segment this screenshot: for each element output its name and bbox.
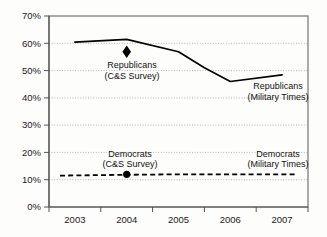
- annotation-democrats-cs-survey: Democrats (C&S Survey): [102, 149, 157, 170]
- chart-figure: 0% 10% 20% 30% 40% 50% 60% 70% 2003 2004…: [0, 0, 327, 237]
- y-axis-tick-labels: 0% 10% 20% 30% 40% 50% 60% 70%: [22, 10, 42, 212]
- annotation-republicans-military-times: Republicans (Military Times): [248, 81, 309, 102]
- y-tick-label: 20%: [22, 147, 42, 158]
- y-tick-label: 50%: [22, 65, 42, 76]
- annotation-line-2: (Military Times): [248, 159, 309, 169]
- marker-democrats-cs-survey: [123, 171, 130, 178]
- line-chart: 0% 10% 20% 30% 40% 50% 60% 70% 2003 2004…: [0, 0, 327, 237]
- annotation-line-1: Republicans: [253, 81, 303, 91]
- annotation-line-2: (C&S Survey): [104, 71, 159, 81]
- x-tick-label: 2004: [116, 214, 137, 225]
- x-tick-label: 2003: [64, 214, 85, 225]
- x-tick-label: 2005: [168, 214, 189, 225]
- y-tick-label: 30%: [22, 119, 42, 130]
- annotation-line-2: (Military Times): [248, 92, 309, 102]
- x-tick-label: 2006: [220, 214, 241, 225]
- y-tick-label: 10%: [22, 174, 42, 185]
- y-tick-label: 60%: [22, 38, 42, 49]
- y-axis-ticks: [44, 16, 49, 207]
- y-tick-label: 0%: [27, 201, 41, 212]
- x-axis-tick-labels: 2003 2004 2005 2006 2007: [64, 214, 292, 225]
- annotation-line-2: (C&S Survey): [102, 159, 157, 169]
- annotation-republicans-cs-survey: Republicans (C&S Survey): [104, 60, 159, 81]
- x-tick-label: 2007: [272, 214, 293, 225]
- annotation-line-1: Republicans: [107, 60, 157, 70]
- x-axis-ticks: [49, 207, 308, 212]
- y-tick-label: 70%: [22, 10, 42, 21]
- annotation-line-1: Democrats: [108, 149, 152, 159]
- y-tick-label: 40%: [22, 92, 42, 103]
- annotation-democrats-military-times: Democrats (Military Times): [248, 149, 309, 170]
- plot-background: [49, 16, 308, 207]
- annotation-line-1: Democrats: [256, 149, 300, 159]
